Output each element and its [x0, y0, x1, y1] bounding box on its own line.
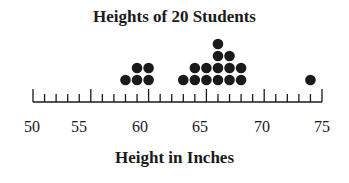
- data-dot: [213, 75, 224, 86]
- data-dot: [201, 75, 212, 86]
- data-dots: [120, 39, 316, 86]
- data-dot: [224, 63, 235, 74]
- data-dot: [224, 75, 235, 86]
- data-dot: [190, 63, 201, 74]
- x-tick-label: 55: [71, 118, 87, 135]
- data-dot: [201, 63, 212, 74]
- data-dot: [120, 75, 131, 86]
- data-dot: [213, 51, 224, 62]
- data-dot: [213, 63, 224, 74]
- data-dot: [143, 75, 154, 86]
- data-dot: [305, 75, 316, 86]
- data-dot: [236, 75, 247, 86]
- x-tick-label: 60: [132, 118, 148, 135]
- x-tick-label: 65: [192, 118, 208, 135]
- data-dot: [132, 75, 143, 86]
- data-dot: [178, 75, 189, 86]
- x-tick-label: 75: [314, 118, 330, 135]
- data-dot: [224, 51, 235, 62]
- x-axis-label: Height in Inches: [0, 148, 349, 168]
- x-tick-label: 70: [254, 118, 270, 135]
- data-dot: [143, 63, 154, 74]
- data-dot: [213, 39, 224, 50]
- x-tick-labels: 505560657075: [24, 118, 330, 135]
- x-tick-label: 50: [24, 118, 40, 135]
- data-dot: [190, 75, 201, 86]
- x-axis: [33, 89, 322, 102]
- data-dot: [132, 63, 143, 74]
- data-dot: [236, 63, 247, 74]
